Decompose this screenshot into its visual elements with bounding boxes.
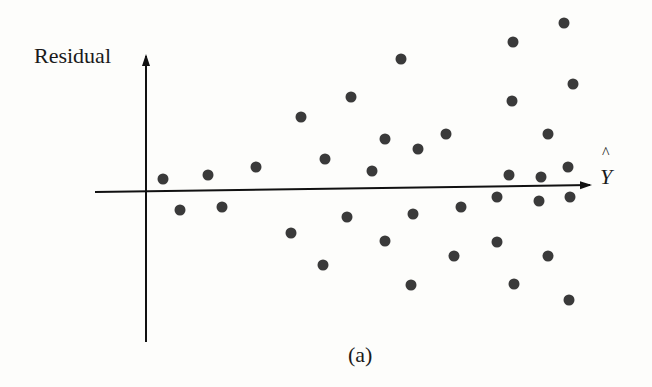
data-point bbox=[543, 251, 554, 262]
data-point bbox=[408, 209, 419, 220]
data-point bbox=[286, 228, 297, 239]
data-point bbox=[492, 192, 503, 203]
data-point bbox=[380, 236, 391, 247]
x-axis bbox=[95, 185, 590, 192]
data-point bbox=[508, 37, 519, 48]
y-axis-label: Residual bbox=[34, 43, 111, 69]
data-point bbox=[534, 196, 545, 207]
data-point bbox=[175, 205, 186, 216]
data-point bbox=[251, 162, 262, 173]
data-point bbox=[367, 166, 378, 177]
data-point bbox=[158, 174, 169, 185]
data-point bbox=[559, 18, 570, 29]
data-point bbox=[413, 144, 424, 155]
x-axis-letter: Y bbox=[600, 164, 612, 190]
data-point bbox=[536, 172, 547, 183]
data-point bbox=[296, 112, 307, 123]
figure-caption: (a) bbox=[348, 342, 372, 368]
data-point bbox=[217, 202, 228, 213]
data-point bbox=[318, 260, 329, 271]
hat-symbol: ^ bbox=[602, 144, 610, 162]
data-point bbox=[492, 237, 503, 248]
data-point bbox=[565, 192, 576, 203]
data-point bbox=[449, 251, 460, 262]
data-point bbox=[456, 202, 467, 213]
data-point bbox=[507, 96, 518, 107]
data-point bbox=[543, 129, 554, 140]
data-point bbox=[203, 170, 214, 181]
data-point bbox=[441, 129, 452, 140]
data-point bbox=[380, 134, 391, 145]
data-point bbox=[342, 212, 353, 223]
data-points bbox=[158, 18, 579, 306]
data-point bbox=[320, 154, 331, 165]
data-point bbox=[396, 54, 407, 65]
data-point bbox=[406, 280, 417, 291]
data-point bbox=[504, 170, 515, 181]
data-point bbox=[568, 79, 579, 90]
data-point bbox=[564, 295, 575, 306]
data-point bbox=[509, 279, 520, 290]
data-point bbox=[346, 92, 357, 103]
data-point bbox=[563, 162, 574, 173]
